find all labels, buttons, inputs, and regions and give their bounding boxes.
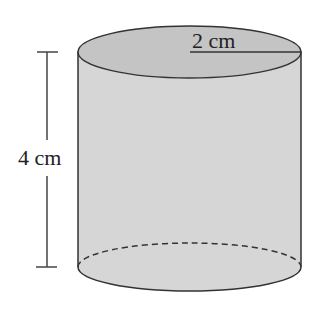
radius-label: 2 cm [192,28,235,53]
cylinder-figure: 2 cm 4 cm [0,0,320,311]
cylinder-body [78,52,301,291]
height-label: 4 cm [18,145,61,170]
cylinder-diagram: 2 cm 4 cm [0,0,320,311]
